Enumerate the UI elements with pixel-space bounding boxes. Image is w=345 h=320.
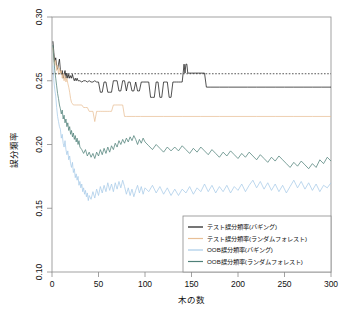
- y-axis-label: 誤分類率: [9, 132, 19, 168]
- legend-label-1: テスト誤分類率(ランダムフォレスト): [207, 235, 307, 243]
- y-tick-label: 0.30: [34, 8, 44, 25]
- y-tick-label: 0.25: [34, 72, 44, 89]
- x-tick-label: 200: [231, 279, 245, 289]
- legend-label-0: テスト誤分類率(バギング): [207, 223, 277, 231]
- chart-container: 0.100.150.200.250.30 050100150200250300 …: [0, 0, 345, 320]
- y-tick-label: 0.20: [34, 136, 44, 153]
- legend-label-3: OOB誤分類率(ランダムフォレスト): [207, 258, 303, 266]
- y-tick-label: 0.15: [34, 200, 44, 217]
- x-tick-label: 0: [50, 279, 55, 289]
- x-axis-label: 木の数: [178, 295, 205, 305]
- legend-label-2: OOB誤分類率(バギング): [207, 246, 273, 254]
- chart-legend: テスト誤分類率(バギング)テスト誤分類率(ランダムフォレスト)OOB誤分類率(バ…: [183, 216, 331, 272]
- x-tick-label: 150: [184, 279, 198, 289]
- x-tick-label: 300: [324, 279, 338, 289]
- x-tick-label: 50: [94, 279, 104, 289]
- misclassification-rate-chart: 0.100.150.200.250.30 050100150200250300 …: [0, 0, 345, 320]
- x-tick-label: 100: [138, 279, 152, 289]
- y-tick-label: 0.10: [34, 263, 44, 280]
- x-tick-label: 250: [277, 279, 291, 289]
